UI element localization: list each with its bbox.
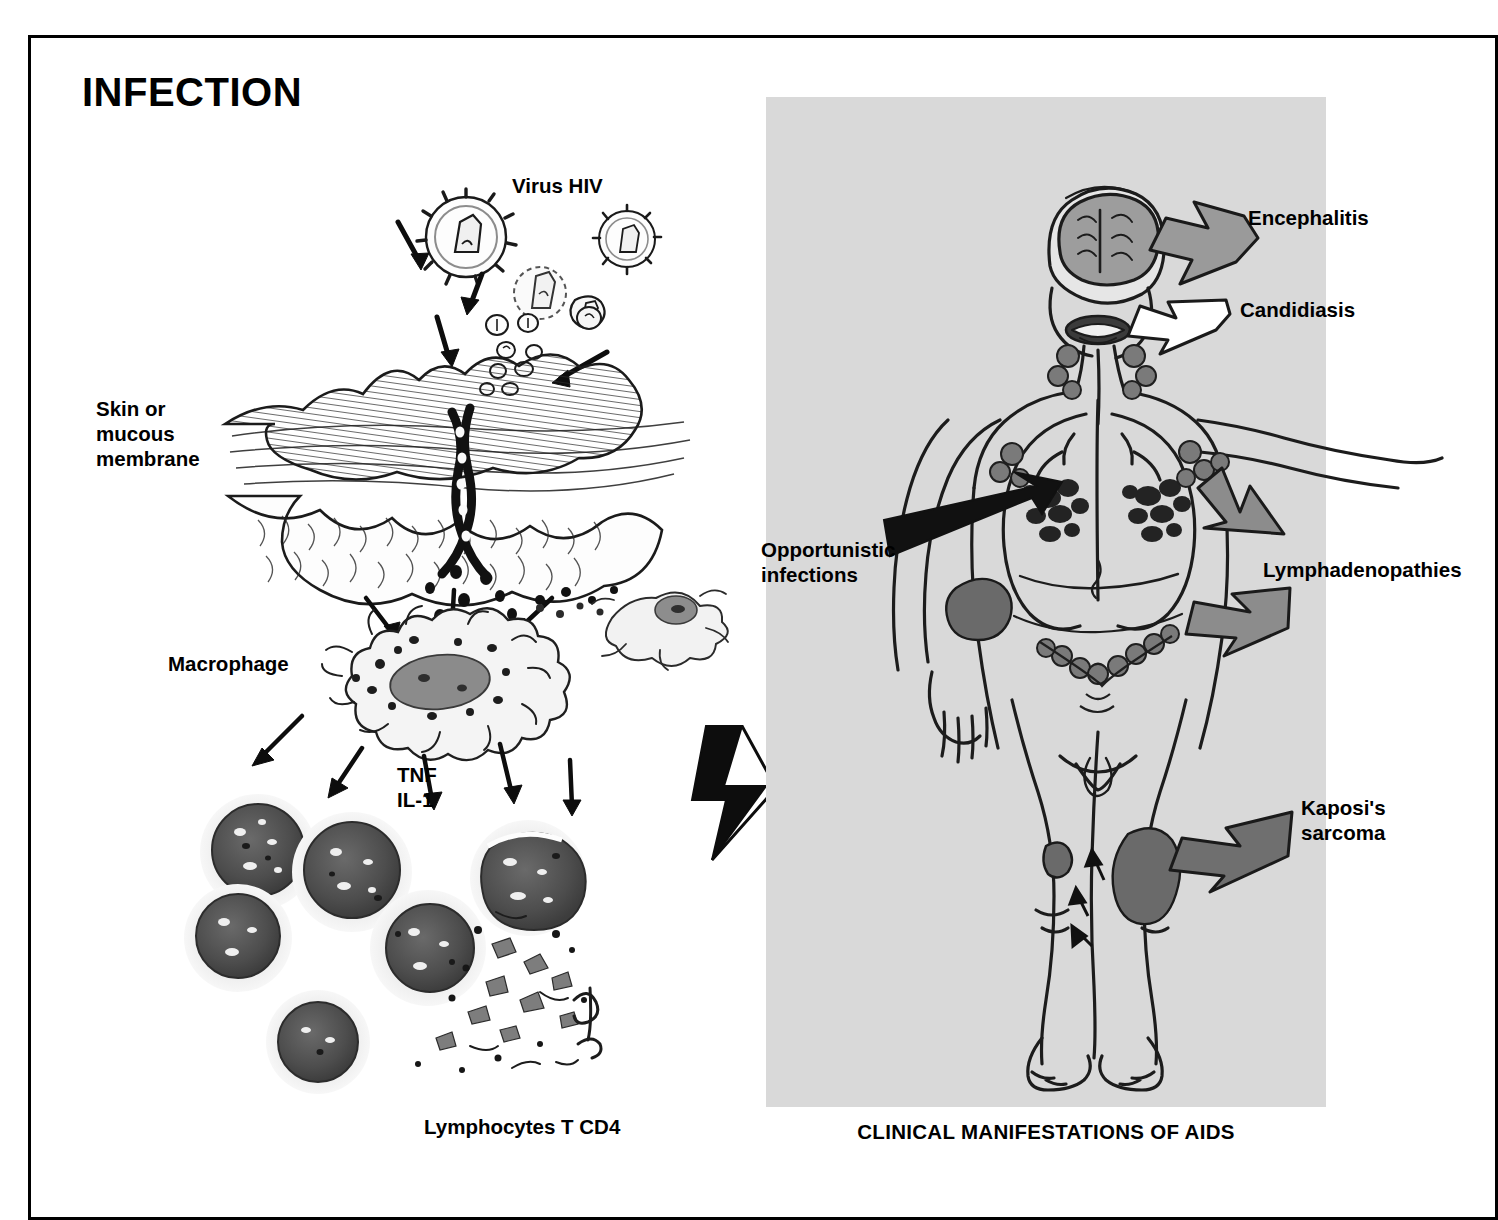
label-lymphadenopathies: Lymphadenopathies — [1263, 557, 1462, 582]
label-kaposis-sarcoma: Kaposi's sarcoma — [1301, 795, 1386, 845]
figure-caption: CLINICAL MANIFESTATIONS OF AIDS — [766, 1120, 1326, 1144]
label-encephalitis: Encephalitis — [1248, 205, 1369, 230]
label-lymphocytes-t-cd4: Lymphocytes T CD4 — [424, 1114, 620, 1139]
label-opportunistic-infections: Opportunistic infections — [761, 537, 895, 587]
label-virus-hiv: Virus HIV — [512, 173, 603, 198]
label-skin-mucous-membrane: Skin or mucous membrane — [96, 396, 200, 471]
page-title: INFECTION — [82, 70, 302, 115]
label-cytokines: TNF IL-1 — [397, 762, 437, 812]
label-macrophage: Macrophage — [168, 651, 289, 676]
clinical-manifestations-panel — [766, 97, 1326, 1107]
label-candidiasis: Candidiasis — [1240, 297, 1355, 322]
